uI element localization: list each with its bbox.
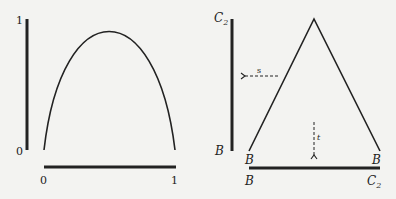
t-arrow-label: t [317,133,321,142]
parabola-curve [44,32,175,151]
left-panel: 1 0 0 1 [16,14,178,187]
right-y-top-label: C2 [214,11,228,27]
triangle-left-vertex-label: B [244,153,254,167]
left-x-right-label: 1 [171,174,178,187]
triangle-right-vertex-label: B [371,153,381,167]
diagram-canvas: 1 0 0 1 C2 B B B s t B C2 [0,0,396,199]
left-y-top-label: 1 [16,14,23,27]
triangle [249,19,380,151]
right-panel: C2 B B B s t B C2 [214,11,381,190]
left-y-bottom-label: 0 [16,145,23,158]
right-x-left-label: B [244,174,254,188]
right-y-bottom-label: B [214,144,224,158]
s-arrow-label: s [257,66,261,75]
left-x-left-label: 0 [40,174,47,187]
right-x-right-label: C2 [367,174,381,190]
